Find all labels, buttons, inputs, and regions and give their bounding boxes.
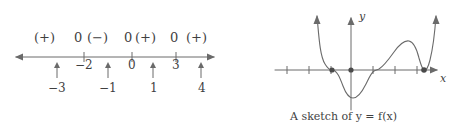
graph-caption: A sketch of y = f(x)	[229, 110, 458, 123]
sign-label-zero-2: 0	[124, 31, 132, 44]
x-axis-label: x	[440, 72, 447, 85]
y-axis-label: y	[358, 10, 366, 23]
root-dot-three	[421, 67, 427, 73]
critical-label-zero: 0	[128, 59, 136, 71]
root-dot-zero	[348, 67, 353, 72]
curve-left-arrow	[314, 15, 321, 24]
sign-label-interval-3: (+)	[135, 31, 156, 44]
sign-chart-panel: (+) 0 (−) 0 (+) 0 (+) −2 0 3 −3 −1 1 4	[0, 0, 229, 134]
sign-label-zero-1: 0	[74, 31, 82, 44]
x-axis-arrow	[430, 67, 438, 74]
graph-panel: y x A sketch of y = f(x)	[229, 0, 458, 134]
number-line-right-arrow	[207, 54, 215, 61]
y-axis-arrow	[348, 17, 355, 25]
function-curve	[317, 16, 436, 98]
curve-right-arrow	[433, 15, 440, 24]
test-value-minus1: −1	[99, 82, 117, 94]
sign-label-zero-3: 0	[170, 31, 178, 44]
number-line-left-arrow	[15, 54, 23, 61]
sign-label-interval-1: (+)	[34, 31, 55, 44]
test-value-four: 4	[198, 82, 206, 94]
sign-label-interval-2: (−)	[87, 31, 108, 44]
sign-chart-svg	[0, 0, 229, 134]
figure-root: (+) 0 (−) 0 (+) 0 (+) −2 0 3 −3 −1 1 4	[0, 0, 458, 134]
critical-label-three: 3	[172, 59, 180, 71]
test-value-one: 1	[150, 82, 158, 94]
critical-label-minus2: −2	[75, 59, 93, 71]
root-dot-minus2	[329, 67, 334, 72]
test-value-minus3: −3	[48, 82, 66, 94]
sign-label-interval-4: (+)	[186, 31, 207, 44]
